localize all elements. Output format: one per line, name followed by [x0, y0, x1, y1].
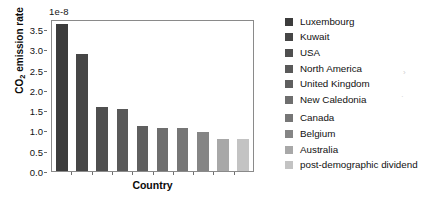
bar-slot [52, 21, 72, 171]
legend-swatch [285, 80, 293, 88]
x-axis-tick-mark [213, 172, 214, 175]
plot-area [51, 20, 254, 172]
legend-swatch [285, 161, 293, 169]
y-axis-tick-mark [44, 152, 47, 153]
x-axis-tick-mark [71, 172, 72, 175]
legend-label: USA [300, 48, 320, 58]
y-axis-tick-mark [44, 30, 47, 31]
legend-swatch [285, 114, 293, 122]
y-axis-tick-label: 3.0 [30, 45, 43, 56]
legend-label: North America [300, 64, 362, 74]
y-axis-tick-mark [44, 91, 47, 92]
x-axis-tick-mark [92, 172, 93, 175]
bar-slot [173, 21, 193, 171]
bar-slot [112, 21, 132, 171]
x-axis-tick-mark [153, 172, 154, 175]
legend-item[interactable]: USA [285, 45, 440, 61]
bar[interactable] [76, 54, 88, 171]
legend-label: United Kingdom [300, 79, 370, 89]
legend-label: Australia [300, 145, 338, 155]
bar[interactable] [177, 128, 189, 171]
legend-swatch [285, 96, 293, 104]
legend-label: post-demographic dividend [300, 160, 418, 170]
bar-chart-figure: 1e-8 CO2 emission rate 0.00.51.01.52.02.… [0, 0, 442, 201]
bar[interactable] [197, 132, 209, 171]
legend-label: Kuwait [300, 32, 329, 42]
legend-item[interactable]: Luxembourg [285, 14, 440, 30]
legend-label: Belgium [300, 129, 335, 139]
x-axis-tick-mark [132, 172, 133, 175]
legend-label: Luxembourg [300, 17, 354, 27]
bar-slot [92, 21, 112, 171]
y-axis-tick-mark [44, 111, 47, 112]
legend-item[interactable]: North America [285, 61, 440, 77]
bar-slot [193, 21, 213, 171]
bar[interactable] [237, 139, 249, 171]
y-axis-tick-labels: 0.00.51.01.52.02.53.03.5 [0, 20, 47, 172]
bar[interactable] [137, 126, 149, 171]
bar[interactable] [217, 139, 229, 171]
bar-series [52, 21, 253, 171]
y-axis-offset-label: 1e-8 [49, 6, 69, 17]
x-axis-tick-mark [193, 172, 194, 175]
x-axis-title: Country [51, 179, 254, 191]
x-axis-tick-mark [173, 172, 174, 175]
legend-item[interactable]: Kuwait [285, 30, 440, 46]
legend-item[interactable]: United Kingdom [285, 76, 440, 92]
legend-swatch [285, 65, 293, 73]
bar-slot [233, 21, 253, 171]
legend-swatch [285, 33, 293, 41]
y-axis-tick-mark [44, 172, 47, 173]
legend-label: New Caledonia [300, 95, 366, 105]
legend-swatch [285, 18, 293, 26]
y-axis-tick-mark [44, 50, 47, 51]
y-axis-tick-label: 0.5 [30, 146, 43, 157]
bar[interactable] [157, 128, 169, 171]
y-axis-tick-label: 0.0 [30, 167, 43, 178]
bar[interactable] [96, 107, 108, 171]
bar-slot [152, 21, 172, 171]
y-axis-tick-label: 1.0 [30, 126, 43, 137]
legend-label: Canada [300, 113, 334, 123]
y-axis-tick-mark [44, 71, 47, 72]
bar-slot [72, 21, 92, 171]
legend-item[interactable]: Canada [285, 111, 440, 127]
legend-swatch [285, 130, 293, 138]
y-axis-tick-label: 2.0 [30, 85, 43, 96]
y-axis-tick-label: 1.5 [30, 106, 43, 117]
legend-swatch [285, 49, 293, 57]
bar[interactable] [56, 24, 68, 171]
bar-slot [132, 21, 152, 171]
legend-item[interactable]: post-demographic dividend [285, 157, 440, 173]
legend-item[interactable]: Australia [285, 142, 440, 158]
x-axis-ticks [51, 172, 254, 177]
chart-legend: LuxembourgKuwaitUSANorth AmericaUnited K… [285, 14, 440, 173]
x-axis-tick-mark [234, 172, 235, 175]
bar[interactable] [117, 109, 129, 171]
x-axis-tick-mark [112, 172, 113, 175]
legend-swatch [285, 146, 293, 154]
y-axis-tick-label: 3.5 [30, 25, 43, 36]
y-axis-tick-mark [44, 131, 47, 132]
bar-slot [213, 21, 233, 171]
legend-item[interactable]: New Caledonia [285, 92, 440, 108]
legend-item[interactable]: Belgium [285, 126, 440, 142]
y-axis-tick-label: 2.5 [30, 65, 43, 76]
